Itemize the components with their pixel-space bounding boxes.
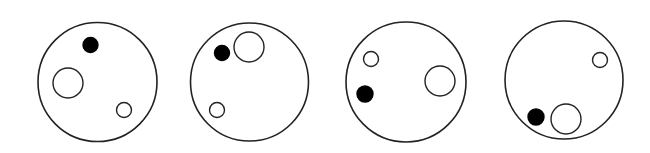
small-open-circle xyxy=(364,52,379,67)
large-open-circle xyxy=(425,66,455,96)
panel-3 xyxy=(346,22,466,142)
panel-4 xyxy=(505,21,623,139)
small-open-circle xyxy=(593,53,608,68)
black-dot xyxy=(357,86,373,102)
large-open-circle xyxy=(53,68,83,98)
large-open-circle xyxy=(551,104,581,134)
circle-sequence-figure xyxy=(0,0,650,153)
black-dot xyxy=(528,109,544,125)
panel-1 xyxy=(38,23,157,142)
black-dot xyxy=(83,38,98,53)
large-open-circle xyxy=(234,32,264,62)
panel-2 xyxy=(191,23,309,141)
black-dot xyxy=(215,46,230,61)
small-open-circle xyxy=(210,103,225,118)
small-open-circle xyxy=(117,103,132,118)
